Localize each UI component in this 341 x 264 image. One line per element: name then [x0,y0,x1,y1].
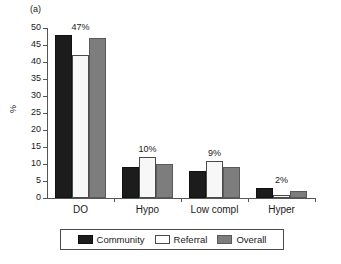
y-tick-mark [43,96,47,97]
legend-swatch-referral-icon [155,235,170,244]
legend-swatch-community-icon [78,235,93,244]
bar-overall-do[interactable] [89,38,106,198]
legend-label: Referral [174,234,208,245]
y-tick-mark [43,28,47,29]
legend-item-referral[interactable]: Referral [155,234,208,245]
bar-community-hypo[interactable] [122,167,139,198]
y-tick-mark [43,164,47,165]
y-tick-label: 15 [19,141,41,151]
y-tick-label: 10 [19,158,41,168]
bar-chart-figure: (a) % 05101520253035404550 47%10%9%2% DO… [0,0,341,264]
y-tick-label: 0 [19,192,41,202]
y-tick-label: 35 [19,73,41,83]
y-tick-mark [43,130,47,131]
bar-value-label-hyper: 2% [254,175,310,185]
chart-legend: CommunityReferralOverall [60,229,284,250]
legend-item-community[interactable]: Community [78,234,145,245]
bars-row [254,28,310,198]
bar-group-hyper: 2% [254,28,310,198]
bar-value-label-hypo: 10% [120,144,176,154]
y-tick-label: 40 [19,56,41,66]
bar-group-hypo: 10% [120,28,176,198]
panel-label: (a) [30,4,41,15]
bar-value-label-low-compl: 9% [187,148,243,158]
plot-area: 05101520253035404550 47%10%9%2% DOHypoLo… [47,28,315,198]
bar-community-low-compl[interactable] [189,171,206,198]
y-axis-line [47,28,48,198]
y-tick-mark [43,198,47,199]
bars-row [53,28,109,198]
bar-referral-hyper[interactable] [273,195,290,198]
bar-community-hyper[interactable] [256,188,273,198]
y-tick-label: 45 [19,39,41,49]
y-tick-label: 5 [19,175,41,185]
legend-label: Community [97,234,145,245]
bars-row [187,28,243,198]
x-tick-mark [114,198,115,202]
bar-referral-do[interactable] [72,55,89,198]
y-axis-title: % [8,102,18,116]
y-tick-mark [43,79,47,80]
bar-overall-hyper[interactable] [290,191,307,198]
x-tick-mark [181,198,182,202]
legend-item-overall[interactable]: Overall [217,234,266,245]
legend-swatch-overall-icon [217,235,232,244]
x-tick-mark [248,198,249,202]
y-tick-label: 25 [19,107,41,117]
bar-overall-low-compl[interactable] [223,167,240,198]
bar-value-label-do: 47% [53,22,109,32]
y-tick-mark [43,113,47,114]
y-tick-label: 50 [19,22,41,32]
y-tick-mark [43,45,47,46]
x-axis-label-hyper: Hyper [232,204,332,215]
y-tick-mark [43,62,47,63]
bar-referral-hypo[interactable] [139,157,156,198]
bars-row [120,28,176,198]
y-tick-mark [43,181,47,182]
legend-label: Overall [236,234,266,245]
bar-group-low-compl: 9% [187,28,243,198]
bar-overall-hypo[interactable] [156,164,173,198]
y-tick-mark [43,147,47,148]
y-tick-label: 30 [19,90,41,100]
bar-referral-low-compl[interactable] [206,161,223,198]
bar-group-do: 47% [53,28,109,198]
x-tick-mark [315,198,316,202]
y-tick-label: 20 [19,124,41,134]
bar-community-do[interactable] [55,35,72,198]
